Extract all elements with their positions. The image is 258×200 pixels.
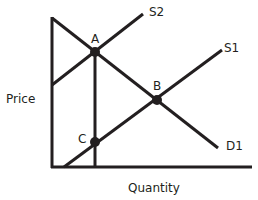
supply-curve-s1 xyxy=(64,50,222,167)
point-label-c: C xyxy=(78,133,86,145)
point-c-marker xyxy=(90,137,100,147)
point-b-marker xyxy=(152,95,162,105)
curve-label-s1: S1 xyxy=(224,42,239,54)
point-label-a: A xyxy=(91,33,99,45)
y-axis-label: Price xyxy=(6,93,35,105)
diagram-canvas xyxy=(0,0,258,200)
supply-demand-diagram: Price Quantity S2 S1 D1 A B C xyxy=(0,0,258,200)
point-a-marker xyxy=(90,47,100,57)
point-label-b: B xyxy=(153,80,161,92)
x-axis-label: Quantity xyxy=(128,182,180,194)
curve-label-d1: D1 xyxy=(226,140,243,152)
demand-curve-d1 xyxy=(52,18,218,148)
curve-label-s2: S2 xyxy=(149,6,164,18)
